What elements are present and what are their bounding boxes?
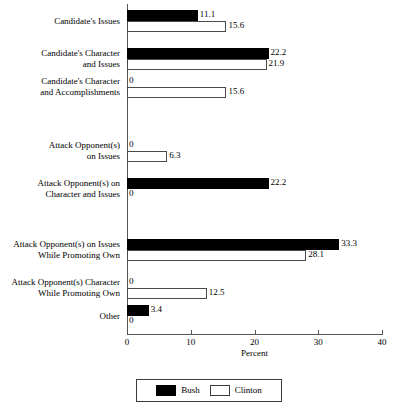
category-label: Attack Opponent(s) on Issues	[0, 140, 120, 162]
category-label: Attack Opponent(s) Character While Promo…	[0, 277, 120, 299]
bar-clinton	[127, 59, 267, 70]
x-tick	[382, 330, 383, 335]
bar-value-bush: 22.2	[271, 47, 287, 58]
x-tick	[191, 330, 192, 335]
x-tick	[255, 330, 256, 335]
bar-value-bush: 33.3	[341, 238, 357, 249]
bar-value-clinton: 21.9	[269, 58, 285, 69]
category-label: Attack Opponent(s) on Character and Issu…	[0, 178, 120, 200]
category-label: Candidate's Character and Issues	[0, 48, 120, 70]
bar-chart: 010203040 Percent Candidate's IssuesCand…	[0, 0, 399, 412]
chart-legend: Bush Clinton	[136, 379, 282, 402]
bar-clinton	[127, 87, 226, 98]
x-tick-label: 20	[240, 337, 270, 348]
x-tick-label: 0	[112, 337, 142, 348]
category-label: Attack Opponent(s) on Issues While Promo…	[0, 239, 120, 261]
x-axis-title: Percent	[127, 348, 382, 359]
bar-value-clinton: 6.3	[169, 150, 180, 161]
bar-value-bush: 3.4	[151, 304, 162, 315]
bar-clinton	[127, 151, 167, 162]
x-tick	[127, 330, 128, 335]
bar-value-bush: 0	[129, 75, 134, 86]
x-tick	[318, 330, 319, 335]
x-tick-label: 40	[367, 337, 397, 348]
category-label: Candidate's Issues	[0, 16, 120, 27]
legend-label-clinton: Clinton	[235, 385, 262, 396]
bar-value-bush: 22.2	[271, 177, 287, 188]
plot-area: 010203040 Percent Candidate's IssuesCand…	[0, 0, 399, 340]
bar-clinton	[127, 288, 207, 299]
legend-item-clinton: Clinton	[210, 385, 262, 396]
legend-item-bush: Bush	[156, 385, 200, 396]
category-label: Other	[0, 311, 120, 322]
bar-bush	[127, 48, 269, 59]
bar-value-clinton: 15.6	[228, 20, 244, 31]
bar-value-clinton: 28.1	[308, 249, 324, 260]
bar-value-clinton: 15.6	[228, 86, 244, 97]
bar-bush	[127, 10, 198, 21]
bar-clinton	[127, 250, 306, 261]
hollow-white-swatch-icon	[210, 385, 230, 396]
bar-value-clinton: 12.5	[209, 287, 225, 298]
x-tick-label: 30	[303, 337, 333, 348]
legend-label-bush: Bush	[181, 385, 200, 396]
bar-clinton	[127, 21, 226, 32]
bar-value-bush: 0	[129, 276, 134, 287]
bar-value-bush: 11.1	[200, 9, 215, 20]
x-tick-label: 10	[176, 337, 206, 348]
category-label: Candidate's Character and Accomplishment…	[0, 76, 120, 98]
filled-black-swatch-icon	[156, 385, 176, 396]
bar-value-clinton: 0	[129, 188, 134, 199]
bar-value-bush: 0	[129, 139, 134, 150]
bar-value-clinton: 0	[129, 315, 134, 326]
bar-bush	[127, 178, 269, 189]
